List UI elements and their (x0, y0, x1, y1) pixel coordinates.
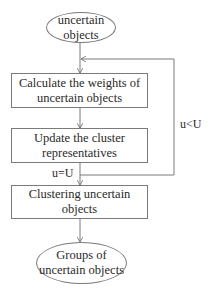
step-clustering-objects-line1: Clustering uncertain (29, 187, 131, 202)
step-calculate-weights: Calculate the weights of uncertain objec… (11, 73, 148, 108)
step-update-representatives: Update the cluster representatives (11, 128, 148, 163)
step-clustering-objects: Clustering uncertain objects (11, 185, 148, 219)
step-update-representatives-line1: Update the cluster (34, 131, 125, 146)
start-node-line1: uncertain (58, 13, 105, 28)
step-calculate-weights-line1: Calculate the weights of (19, 76, 140, 91)
step-calculate-weights-line2: uncertain objects (19, 91, 140, 106)
end-node-groups: Groups of uncertain objects (36, 242, 127, 284)
start-node-uncertain-objects: uncertain objects (46, 12, 116, 43)
step-clustering-objects-line2: objects (29, 202, 131, 217)
exit-condition-label: u=U (52, 166, 73, 181)
end-node-line1: Groups of (39, 248, 124, 263)
loop-condition-label: u<U (180, 117, 201, 132)
step-update-representatives-line2: representatives (34, 146, 125, 161)
end-node-line2: uncertain objects (39, 263, 124, 278)
start-node-line2: objects (58, 28, 105, 43)
